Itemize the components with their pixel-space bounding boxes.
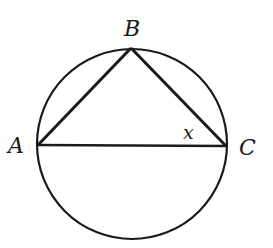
segment-ac <box>38 145 226 146</box>
segment-bc <box>131 48 226 146</box>
point-label-c: C <box>239 135 256 160</box>
point-label-b: B <box>123 16 140 41</box>
point-label-a: A <box>6 133 24 158</box>
angle-label-x: x <box>183 121 194 143</box>
geometry-diagram: B A C x <box>0 0 273 248</box>
